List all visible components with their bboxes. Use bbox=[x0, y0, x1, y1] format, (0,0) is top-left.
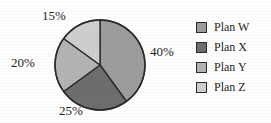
legend-item-plan-x[interactable]: Plan X bbox=[196, 37, 270, 57]
slice-label-plan-z: 15% bbox=[42, 9, 66, 22]
legend-label-plan-x: Plan X bbox=[214, 41, 247, 53]
chart-legend: Plan WPlan XPlan YPlan Z bbox=[196, 17, 270, 97]
legend-swatch-plan-z bbox=[196, 82, 207, 93]
legend-label-plan-w: Plan W bbox=[214, 21, 249, 33]
slice-label-plan-w: 40% bbox=[150, 45, 174, 58]
slice-label-plan-y: 20% bbox=[11, 56, 35, 69]
slice-label-plan-x: 25% bbox=[59, 104, 83, 117]
legend-swatch-plan-w bbox=[196, 22, 207, 33]
legend-item-plan-y[interactable]: Plan Y bbox=[196, 57, 270, 77]
pie-chart-figure: 40% 25% 20% 15% Plan WPlan XPlan YPlan Z bbox=[0, 0, 271, 123]
legend-label-plan-y: Plan Y bbox=[214, 61, 247, 73]
legend-item-plan-z[interactable]: Plan Z bbox=[196, 77, 270, 97]
legend-swatch-plan-x bbox=[196, 42, 207, 53]
legend-swatch-plan-y bbox=[196, 62, 207, 73]
legend-item-plan-w[interactable]: Plan W bbox=[196, 17, 270, 37]
pie-slice-group bbox=[55, 20, 145, 110]
legend-label-plan-z: Plan Z bbox=[214, 81, 246, 93]
